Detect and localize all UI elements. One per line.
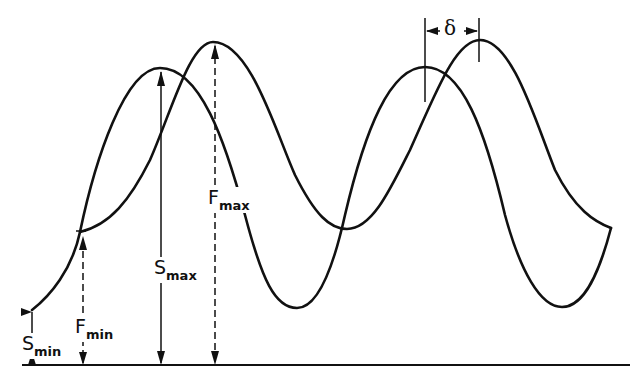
s-max-arrowhead-up (157, 71, 165, 86)
f-max-arrowhead-up (211, 44, 219, 59)
delta-label: δ (442, 18, 458, 38)
f-min-arrowhead-down (79, 352, 87, 365)
s-max-arrowhead-down (157, 351, 165, 365)
f-max-arrowhead-down (211, 351, 219, 365)
waveform-diagram: Smin Fmin Smax Fmax δ (0, 0, 633, 384)
s-curve (32, 67, 611, 310)
f-min-arrowhead-up (79, 236, 87, 250)
f-max-label: Fmax (208, 187, 250, 213)
delta-right-arrowhead (466, 27, 478, 35)
s-min-label: Smin (22, 333, 61, 359)
s-max-label: Smax (154, 257, 197, 283)
delta-left-arrowhead (426, 27, 438, 35)
f-min-label: Fmin (75, 316, 113, 342)
